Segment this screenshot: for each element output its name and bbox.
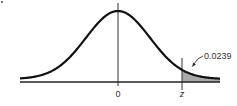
annotation-leader (194, 56, 203, 64)
tick-label-zero: 0 (115, 89, 120, 99)
area-label: 0.0239 (204, 51, 232, 61)
normal-curve-chart: 0 z 0.0239 (0, 0, 237, 106)
corner-mark (1, 1, 3, 3)
normal-curve (20, 11, 220, 79)
tick-label-z: z (179, 89, 185, 99)
arrow-head-icon (192, 63, 196, 68)
